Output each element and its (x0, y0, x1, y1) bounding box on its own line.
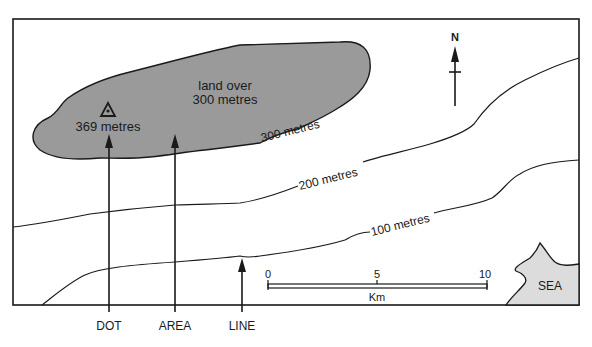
north-arrow-icon (449, 46, 461, 106)
scale-unit-label: Km (369, 291, 386, 303)
contour-100m-east (434, 160, 579, 213)
area-label-line2: 300 metres (192, 92, 258, 107)
line-arrow-icon (238, 258, 246, 312)
scale-tick-0: 0 (265, 268, 271, 280)
scale-tick-5: 5 (374, 268, 380, 280)
area-label-line1: land over (198, 78, 252, 93)
scale-tick-10: 10 (479, 268, 491, 280)
contour-200m-east (363, 58, 579, 162)
sea-label: SEA (538, 279, 562, 293)
contour-200m (13, 186, 298, 227)
contour-100m (42, 232, 370, 305)
scale-bar (268, 280, 487, 290)
relief-map: 300 metres 200 metres 100 metres 369 met… (0, 0, 592, 347)
dot-arrow-icon (105, 134, 113, 312)
contour-label-100: 100 metres (369, 211, 431, 239)
method-label-dot: DOT (96, 319, 122, 333)
area-arrow-icon (171, 134, 179, 312)
method-label-line: LINE (229, 319, 256, 333)
sea-area (506, 243, 579, 305)
contour-label-200: 200 metres (297, 165, 359, 193)
north-label: N (451, 31, 459, 43)
method-label-area: AREA (159, 319, 192, 333)
summit-height-label: 369 metres (75, 119, 141, 134)
